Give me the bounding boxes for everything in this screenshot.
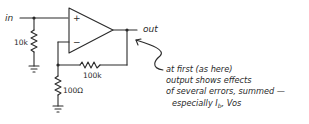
resistor-100k-label: 100k [83,71,102,80]
annotation-line-4: especially Ib, Vos [172,98,242,109]
output-label: out [143,24,158,34]
resistor-100k-icon [80,62,100,68]
plus-input-sign: + [73,13,81,23]
pointer-arrow-icon [136,39,163,70]
annotation-line-2: output shows effects [166,75,252,85]
feedback-wire [58,30,127,65]
annotation-line-3: of several errors, summed — [166,86,285,96]
schematic-canvas: in 10k + − out 100k [0,0,309,124]
input-label: in [5,13,14,23]
resistor-10k-icon [31,18,37,66]
annotation-note: at first (as here) output shows effects … [166,64,285,109]
resistor-100-ohm-icon [55,65,61,106]
resistor-10k-label: 10k [14,38,29,47]
vos-term: Vos [227,98,242,108]
minus-input-sign: − [73,37,81,47]
ground-icon [53,106,63,112]
annotation-line-1: at first (as here) [166,64,232,74]
ground-icon [29,66,39,72]
resistor-100-ohm-label: 100Ω [63,86,83,95]
